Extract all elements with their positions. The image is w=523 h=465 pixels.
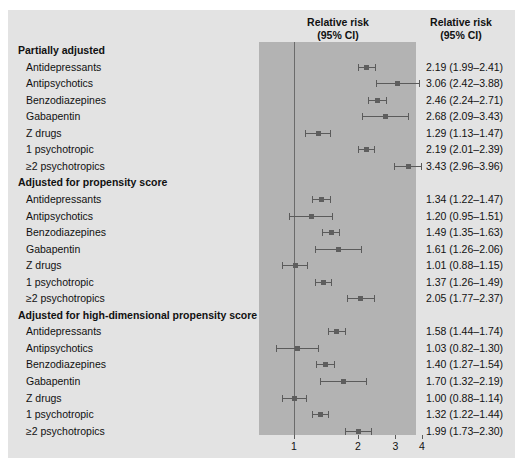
forest-row: Antipsychotics1.03 (0.82–1.30) bbox=[8, 340, 515, 356]
ci-lower-cap bbox=[376, 80, 377, 87]
ci-lower-cap bbox=[276, 345, 277, 352]
forest-row-value: 1.37 (1.26–1.49) bbox=[426, 274, 503, 290]
forest-row-label: Benzodiazepines bbox=[26, 92, 106, 108]
x-axis-tick-label: 2 bbox=[348, 440, 368, 452]
forest-row-value: 1.70 (1.32–2.19) bbox=[426, 373, 503, 389]
forest-row-value: 1.32 (1.22–1.44) bbox=[426, 406, 503, 422]
point-estimate-marker bbox=[309, 214, 314, 219]
forest-row: Antidepressants2.19 (1.99–2.41) bbox=[8, 59, 515, 75]
forest-row-label: 1 psychotropic bbox=[26, 406, 94, 422]
forest-row-value: 3.06 (2.42–3.88) bbox=[426, 75, 503, 91]
point-estimate-marker bbox=[319, 197, 324, 202]
forest-row: 1 psychotropic1.37 (1.26–1.49) bbox=[8, 274, 515, 290]
ci-upper-cap bbox=[345, 328, 346, 335]
ci-lower-cap bbox=[320, 378, 321, 385]
ci-upper-cap bbox=[328, 411, 329, 418]
forest-row-value: 3.43 (2.96–3.96) bbox=[426, 158, 503, 174]
x-axis-tick-label: 1 bbox=[284, 440, 304, 452]
ci-upper-cap bbox=[331, 279, 332, 286]
forest-row-label: Antidepressants bbox=[26, 59, 101, 75]
value-column-header-line2: (95% CI) bbox=[411, 29, 511, 42]
ci-upper-cap bbox=[307, 262, 308, 269]
group-heading-label: Adjusted for high-dimensional propensity… bbox=[18, 307, 257, 323]
forest-row-value: 1.29 (1.13–1.47) bbox=[426, 125, 503, 141]
ci-upper-cap bbox=[419, 80, 420, 87]
ci-upper-cap bbox=[306, 395, 307, 402]
forest-row-value: 1.99 (1.73–2.30) bbox=[426, 423, 503, 439]
forest-row-label: Benzodiazepines bbox=[26, 224, 106, 240]
ci-lower-cap bbox=[345, 428, 346, 435]
forest-row-label: Antidepressants bbox=[26, 191, 101, 207]
ci-upper-cap bbox=[386, 97, 387, 104]
forest-row-label: Benzodiazepines bbox=[26, 356, 106, 372]
point-estimate-marker bbox=[329, 230, 334, 235]
ci-upper-cap bbox=[332, 213, 333, 220]
forest-row-value: 2.68 (2.09–3.43) bbox=[426, 108, 503, 124]
ci-lower-cap bbox=[282, 262, 283, 269]
plot-column-header-line2: (95% CI) bbox=[253, 29, 423, 42]
ci-upper-cap bbox=[374, 146, 375, 153]
forest-row-label: ≥2 psychotropics bbox=[26, 290, 105, 306]
ci-lower-cap bbox=[305, 130, 306, 137]
point-estimate-marker bbox=[364, 65, 369, 70]
forest-row-value: 1.00 (0.88–1.14) bbox=[426, 390, 503, 406]
ci-lower-cap bbox=[358, 146, 359, 153]
forest-row-label: ≥2 psychotropics bbox=[26, 158, 105, 174]
ci-upper-cap bbox=[421, 163, 422, 170]
forest-row: ≥2 psychotropics2.05 (1.77–2.37) bbox=[8, 290, 515, 306]
forest-row-label: Z drugs bbox=[26, 257, 62, 273]
forest-row: 1 psychotropic2.19 (2.01–2.39) bbox=[8, 141, 515, 157]
point-estimate-marker bbox=[334, 329, 339, 334]
point-estimate-marker bbox=[364, 147, 369, 152]
value-column-header: Relative risk (95% CI) bbox=[411, 16, 511, 42]
point-estimate-marker bbox=[316, 131, 321, 136]
forest-row-label: Gabapentin bbox=[26, 241, 80, 257]
point-estimate-marker bbox=[318, 412, 323, 417]
forest-row-label: ≥2 psychotropics bbox=[26, 423, 105, 439]
ci-upper-cap bbox=[330, 196, 331, 203]
ci-lower-cap bbox=[316, 361, 317, 368]
forest-row-label: 1 psychotropic bbox=[26, 274, 94, 290]
forest-row: ≥2 psychotropics3.43 (2.96–3.96) bbox=[8, 158, 515, 174]
forest-row-value: 1.03 (0.82–1.30) bbox=[426, 340, 503, 356]
forest-row: 1 psychotropic1.32 (1.22–1.44) bbox=[8, 406, 515, 422]
ci-lower-cap bbox=[282, 395, 283, 402]
forest-row-label: 1 psychotropic bbox=[26, 141, 94, 157]
ci-lower-cap bbox=[315, 246, 316, 253]
ci-lower-cap bbox=[368, 97, 369, 104]
plot-column-header: Relative risk (95% CI) bbox=[253, 16, 423, 42]
forest-row: Z drugs1.29 (1.13–1.47) bbox=[8, 125, 515, 141]
forest-row-value: 1.61 (1.26–2.06) bbox=[426, 241, 503, 257]
ci-upper-cap bbox=[371, 428, 372, 435]
forest-row-value: 1.01 (0.88–1.15) bbox=[426, 257, 503, 273]
ci-lower-cap bbox=[312, 196, 313, 203]
point-estimate-marker bbox=[295, 346, 300, 351]
forest-row-value: 2.46 (2.24–2.71) bbox=[426, 92, 503, 108]
forest-row: Benzodiazepines1.40 (1.27–1.54) bbox=[8, 356, 515, 372]
point-estimate-marker bbox=[395, 81, 400, 86]
forest-row-value: 1.40 (1.27–1.54) bbox=[426, 356, 503, 372]
forest-row-label: Gabapentin bbox=[26, 108, 80, 124]
forest-row-value: 1.49 (1.35–1.63) bbox=[426, 224, 503, 240]
x-axis-tick-label: 4 bbox=[412, 440, 432, 452]
forest-row: Antidepressants1.34 (1.22–1.47) bbox=[8, 191, 515, 207]
ci-upper-cap bbox=[339, 229, 340, 236]
forest-plot-figure: Relative risk (95% CI) Relative risk (95… bbox=[8, 10, 515, 458]
point-estimate-marker bbox=[375, 98, 380, 103]
forest-row-value: 1.34 (1.22–1.47) bbox=[426, 191, 503, 207]
point-estimate-marker bbox=[383, 114, 388, 119]
forest-row: Z drugs1.00 (0.88–1.14) bbox=[8, 390, 515, 406]
forest-row-label: Antidepressants bbox=[26, 323, 101, 339]
forest-row-label: Antipsychotics bbox=[26, 208, 93, 224]
group-heading-row: Adjusted for propensity score bbox=[8, 174, 515, 190]
forest-row: Gabapentin1.70 (1.32–2.19) bbox=[8, 373, 515, 389]
ci-upper-cap bbox=[408, 113, 409, 120]
forest-row: Gabapentin2.68 (2.09–3.43) bbox=[8, 108, 515, 124]
point-estimate-marker bbox=[356, 429, 361, 434]
forest-row: Benzodiazepines2.46 (2.24–2.71) bbox=[8, 92, 515, 108]
forest-row: Gabapentin1.61 (1.26–2.06) bbox=[8, 241, 515, 257]
forest-row-label: Antipsychotics bbox=[26, 75, 93, 91]
ci-lower-cap bbox=[315, 279, 316, 286]
forest-row: Antipsychotics1.20 (0.95–1.51) bbox=[8, 208, 515, 224]
forest-row-label: Antipsychotics bbox=[26, 340, 93, 356]
